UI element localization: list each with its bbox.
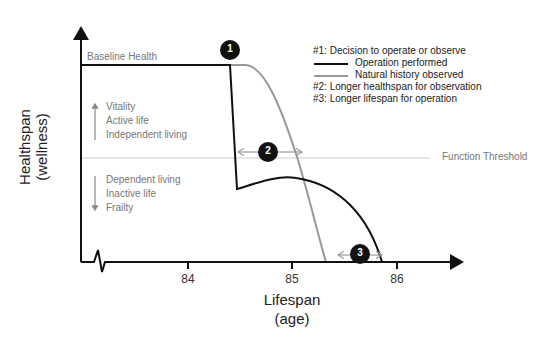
x-axis [81, 250, 462, 272]
tick-label-86: 86 [386, 272, 408, 286]
legend-natural-label: Natural history observed [355, 69, 463, 80]
legend-operation-label: Operation performed [355, 57, 447, 68]
marker-2-label: 2 [262, 145, 274, 156]
label-frailty: Frailty [106, 201, 181, 215]
baseline-health-label: Baseline Health [87, 51, 157, 62]
label-dependent-living: Dependent living [106, 173, 181, 187]
y-title-line-2: (wellness) [33, 92, 50, 202]
label-inactive-life: Inactive life [106, 187, 181, 201]
y-axis-title: Healthspan (wellness) [16, 92, 50, 202]
natural-history-curve [82, 65, 326, 262]
tick-label-84: 84 [177, 272, 199, 286]
label-vitality: Vitality [106, 100, 187, 114]
label-active-life: Active life [106, 114, 187, 128]
label-independent-living: Independent living [106, 128, 187, 142]
function-threshold-label: Function Threshold [442, 151, 527, 162]
legend-line-3: #3: Longer lifespan for operation [313, 93, 457, 104]
x-title-line-1: Lifespan [242, 290, 342, 309]
legend-line-1: #1: Decision to operate or observe [313, 45, 466, 56]
x-axis-title: Lifespan (age) [242, 290, 342, 328]
marker-3-label: 3 [354, 247, 366, 258]
marker-1-label: 1 [224, 43, 236, 54]
legend-line-2: #2: Longer healthspan for observation [313, 81, 481, 92]
tick-label-85: 85 [281, 272, 303, 286]
healthy-states-list: Vitality Active life Independent living [106, 100, 187, 142]
frail-states-list: Dependent living Inactive life Frailty [106, 173, 181, 215]
y-title-line-1: Healthspan [16, 92, 33, 202]
x-title-line-2: (age) [242, 309, 342, 328]
